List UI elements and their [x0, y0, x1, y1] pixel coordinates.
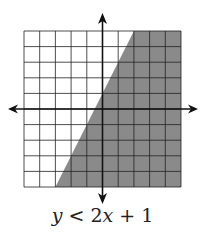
caption-op: < 2	[62, 204, 102, 226]
caption-rest: + 1	[113, 204, 153, 226]
inequality-graph	[0, 0, 205, 237]
inequality-caption: y < 2x + 1	[0, 204, 205, 226]
caption-x: x	[103, 204, 114, 226]
caption-y: y	[52, 204, 63, 226]
